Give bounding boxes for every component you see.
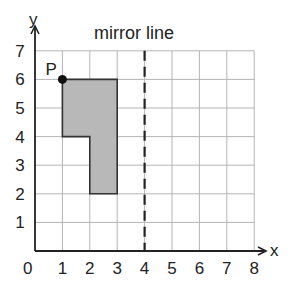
shaded-shape	[62, 79, 117, 193]
origin-label: 0	[23, 259, 32, 278]
point-p	[58, 75, 67, 84]
x-tick-label: 1	[58, 259, 67, 278]
y-tick-label: 2	[15, 185, 24, 204]
y-tick-label: 6	[15, 70, 24, 89]
x-tick-label: 2	[85, 259, 94, 278]
x-axis-label: x	[270, 241, 279, 260]
x-tick-label: 5	[167, 259, 176, 278]
y-tick-label: 3	[15, 156, 24, 175]
x-tick-label: 7	[222, 259, 231, 278]
point-p-label: P	[45, 60, 56, 79]
x-tick-label: 3	[112, 259, 121, 278]
y-tick-label: 1	[15, 213, 24, 232]
y-axis-label: y	[29, 10, 38, 29]
coordinate-diagram: 123456781234567 P mirror line y x 0	[0, 0, 295, 288]
x-tick-label: 4	[140, 259, 149, 278]
y-tick-label: 4	[15, 128, 24, 147]
mirror-line-label: mirror line	[94, 23, 174, 43]
x-tick-label: 6	[195, 259, 204, 278]
y-tick-label: 7	[15, 42, 24, 61]
y-tick-label: 5	[15, 99, 24, 118]
axes	[31, 26, 266, 255]
x-tick-label: 8	[249, 259, 258, 278]
